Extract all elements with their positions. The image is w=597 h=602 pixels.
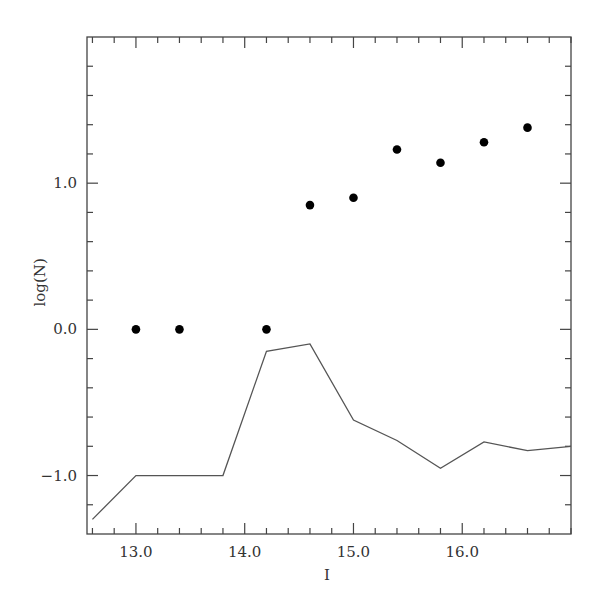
x-tick-label: 14.0 xyxy=(228,543,261,561)
x-tick-label: 15.0 xyxy=(337,543,370,561)
y-tick-label: 1.0 xyxy=(53,174,77,192)
y-axis-label: log(N) xyxy=(31,258,49,306)
x-tick-label: 13.0 xyxy=(119,543,152,561)
x-axis-label: I xyxy=(324,566,330,584)
data-point xyxy=(175,325,184,334)
x-tick-label: 16.0 xyxy=(446,543,479,561)
data-point xyxy=(306,201,315,210)
data-point xyxy=(523,123,532,132)
y-tick-label: 0.0 xyxy=(53,320,77,338)
data-point xyxy=(393,145,402,154)
data-point xyxy=(132,325,141,334)
data-point xyxy=(480,138,489,147)
data-point xyxy=(262,325,271,334)
axis-ticks xyxy=(87,37,571,534)
plot-frame xyxy=(87,37,571,534)
data-points xyxy=(132,123,532,333)
y-tick-label: −1.0 xyxy=(41,467,77,485)
model-line xyxy=(92,344,571,519)
data-point xyxy=(349,193,358,202)
axis-tick-labels: 13.014.015.016.0−1.00.01.0 xyxy=(41,174,479,561)
chart: 13.014.015.016.0−1.00.01.0 I log(N) xyxy=(0,0,597,602)
data-point xyxy=(436,158,445,167)
